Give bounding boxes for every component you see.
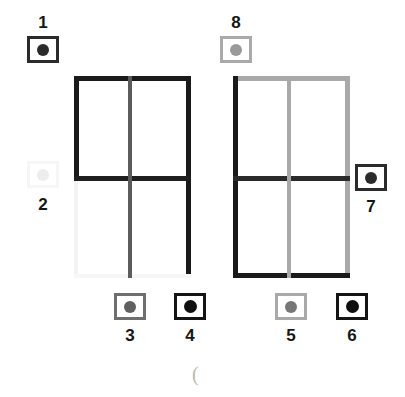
right-top-edge xyxy=(233,76,350,81)
left-lower-left-edge xyxy=(74,181,78,278)
marker-8-dot xyxy=(230,44,242,56)
marker-5-label: 5 xyxy=(281,327,301,344)
left-center-upright xyxy=(128,76,132,278)
marker-3-box[interactable] xyxy=(114,293,146,320)
marker-2-label: 2 xyxy=(33,196,53,213)
left-top-edge xyxy=(74,76,191,81)
diagram-canvas: 1 2 3 4 5 6 xyxy=(0,0,405,397)
marker-5-box[interactable] xyxy=(275,293,307,320)
caption-paren-mark: ( xyxy=(192,364,199,384)
left-upper-left-edge xyxy=(74,76,79,181)
marker-3-dot xyxy=(124,301,136,313)
left-crossbar xyxy=(74,176,191,181)
marker-4-box[interactable] xyxy=(174,293,206,320)
marker-8-box[interactable] xyxy=(220,36,252,63)
marker-1-box[interactable] xyxy=(27,36,59,63)
marker-2-box[interactable] xyxy=(27,161,59,188)
marker-7-box[interactable] xyxy=(355,164,387,191)
marker-3-label: 3 xyxy=(120,327,140,344)
marker-4-dot xyxy=(184,300,197,313)
right-crossbar xyxy=(233,176,350,181)
marker-7-dot xyxy=(365,172,377,184)
marker-6-box[interactable] xyxy=(336,293,368,320)
right-bottom-edge xyxy=(233,273,350,278)
right-center-upright xyxy=(287,76,291,278)
marker-1-label: 1 xyxy=(33,14,53,31)
marker-4-label: 4 xyxy=(180,327,200,344)
marker-5-dot xyxy=(285,301,297,313)
marker-1-dot xyxy=(37,44,49,56)
marker-6-label: 6 xyxy=(342,327,362,344)
marker-7-label: 7 xyxy=(361,198,381,215)
marker-2-dot xyxy=(37,169,49,181)
left-bottom-edge xyxy=(74,274,191,278)
marker-6-dot xyxy=(346,300,359,313)
marker-8-label: 8 xyxy=(226,14,246,31)
